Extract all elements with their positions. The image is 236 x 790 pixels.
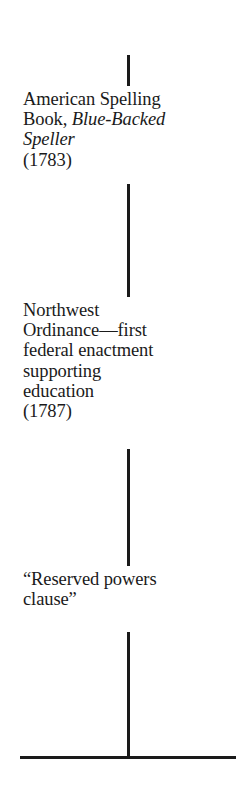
timeline-baseline	[20, 756, 236, 759]
timeline-connector-3	[127, 449, 130, 566]
event-line-italic: Speller	[23, 129, 75, 149]
event-line: supporting	[23, 361, 233, 381]
event-date: (1783)	[23, 150, 233, 170]
event-line: Northwest	[23, 300, 233, 320]
event-date: (1787)	[23, 401, 233, 421]
timeline-connector-2	[127, 184, 130, 297]
event-line-prefix: Book,	[23, 109, 72, 129]
event-line: American Spelling	[23, 89, 233, 109]
timeline-connector-4	[127, 632, 130, 757]
timeline-event-reserved-powers-clause: “Reserved powers clause”	[23, 569, 233, 609]
event-line: “Reserved powers	[23, 569, 233, 589]
timeline-connector-1	[127, 55, 130, 86]
event-line: Ordinance—first	[23, 320, 233, 340]
event-line: education	[23, 381, 233, 401]
timeline-event-american-spelling-book: American Spelling Book, Blue-Backed Spel…	[23, 89, 233, 170]
timeline-event-northwest-ordinance: Northwest Ordinance—first federal enactm…	[23, 300, 233, 421]
event-line: Book, Blue-Backed	[23, 109, 233, 129]
event-line: federal enactment	[23, 340, 233, 360]
event-line: Speller	[23, 129, 233, 149]
event-line-italic: Blue-Backed	[72, 109, 165, 129]
event-line: clause”	[23, 589, 233, 609]
